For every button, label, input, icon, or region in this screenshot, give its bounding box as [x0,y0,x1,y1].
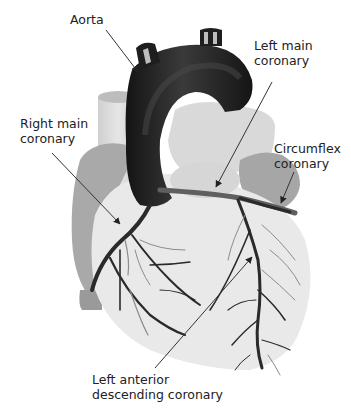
label-right-main-line1: Right main [20,116,88,131]
label-left-main-coronary: Left main coronary [254,38,313,68]
label-circumflex-coronary: Circumflex coronary [274,141,341,171]
label-circumflex-line1: Circumflex [274,141,341,156]
label-right-main-line2: coronary [20,131,88,146]
label-left-anterior-descending: Left anterior descending coronary [92,372,223,402]
label-aorta: Aorta [70,12,104,27]
label-circumflex-line2: coronary [274,156,341,171]
aorta-pointer [106,30,138,72]
label-lad-line1: Left anterior [92,372,223,387]
label-lad-line2: descending coronary [92,387,223,402]
label-aorta-line1: Aorta [70,12,104,27]
label-left-main-line2: coronary [254,53,313,68]
label-right-main-coronary: Right main coronary [20,116,88,146]
label-left-main-line1: Left main [254,38,313,53]
